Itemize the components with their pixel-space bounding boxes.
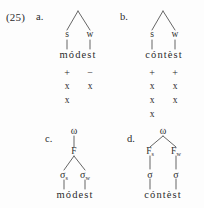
panel-a-grid-row0-col0: x [62,82,72,92]
figure-25-metrical-structures: (25) a. s w módest + − x x x b. s w cónt… [0,0,204,208]
panel-b-grid-sign-right: + [170,68,180,78]
panel-letter-d: d. [127,133,135,144]
panel-c-branch-left [64,156,74,170]
panel-letter-a: a. [36,11,43,22]
panel-c-node-foot: F [69,147,79,157]
panel-a-grid-row0-col1: x [85,82,95,92]
panel-c-syllable-strong-subscript: s [65,174,67,181]
panel-a-grid-sign-right: − [85,68,95,78]
panel-a-grid-sign-left: + [62,68,72,78]
panel-d-node-word-omega: ω [158,126,168,136]
panel-b-word: cóntèst [114,50,204,61]
panel-d-node-foot-strong: Fs [143,147,157,157]
panel-b-grid-row2-col0: x [147,110,157,120]
panel-c-branch-right [74,156,85,170]
panel-a-node-strong: s [62,30,72,40]
panel-b-grid-row1-col1: x [170,96,180,106]
panel-b-node-strong: s [147,30,157,40]
panel-a-grid-row1-col0: x [62,96,72,106]
panel-letter-b: b. [120,11,128,22]
panel-a-branch-left [67,11,78,30]
panel-c-node-syllable-strong: σs [57,170,71,180]
panel-d-node-syllable-left: σ [145,170,155,180]
panel-b-grid-row0-col0: x [147,82,157,92]
panel-a-word: módest [28,50,128,61]
panel-b-node-weak: w [170,30,180,40]
panel-d-word: cóntèst [113,190,204,201]
panel-d-node-syllable-right: σ [171,170,181,180]
panel-d-node-foot-weak: Fw [169,147,183,157]
panel-a-branch-right [78,11,90,30]
panel-d-branch-left [150,136,163,147]
panel-b-grid-row1-col0: x [147,96,157,106]
panel-b-branch-left [152,11,163,30]
panel-d-foot-weak-subscript: w [176,150,180,157]
panel-b-grid-row0-col1: x [170,82,180,92]
panel-c-node-word-omega: ω [69,126,79,136]
panel-c-node-syllable-weak: σw [78,170,92,180]
panel-d-foot-strong-subscript: s [151,150,153,157]
panel-c-syllable-weak-subscript: w [85,174,89,181]
panel-letter-c: c. [45,133,52,144]
panel-c-word: módest [25,190,125,201]
panel-a-node-weak: w [85,30,95,40]
example-number: (25) [6,11,25,23]
panel-b-branch-right [163,11,175,30]
panel-b-grid-sign-left: + [147,68,157,78]
